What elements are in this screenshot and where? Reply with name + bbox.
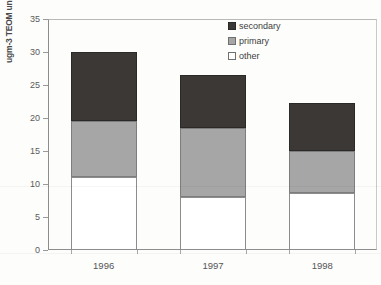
y-axis-tick (43, 217, 48, 218)
x-axis-category-label: 1998 (292, 261, 352, 271)
stacked-bar-chart: ugm-3 TEOM units 05101520253035 19961997… (0, 0, 381, 285)
legend-item-other[interactable]: other (228, 49, 314, 64)
legend-item-secondary[interactable]: secondary (228, 19, 314, 34)
legend-swatch-secondary-icon (228, 22, 236, 30)
y-axis-tick-label: 30 (14, 48, 40, 57)
y-axis-tick (43, 151, 48, 152)
x-axis-tick (289, 250, 290, 254)
x-axis-tick (71, 250, 72, 254)
bar-segment-secondary[interactable] (289, 103, 355, 151)
bar-segment-other[interactable] (289, 193, 355, 250)
plot-area (49, 19, 377, 250)
bar-segment-primary[interactable] (71, 121, 137, 177)
x-axis-tick (355, 250, 356, 254)
bar-segment-primary[interactable] (289, 151, 355, 193)
legend-swatch-other-icon (228, 52, 236, 60)
y-axis-tick-label: 0 (14, 246, 40, 255)
y-axis-tick-label: 20 (14, 114, 40, 123)
bar-segment-other[interactable] (180, 197, 246, 250)
chart-legend: secondaryprimaryother (228, 19, 314, 64)
legend-item-label: primary (239, 34, 269, 49)
y-axis-tick-label: 5 (14, 213, 40, 222)
y-axis-tick-label: 10 (14, 180, 40, 189)
y-axis-tick (43, 184, 48, 185)
bar-segment-other[interactable] (71, 177, 137, 250)
legend-item-label: other (239, 49, 260, 64)
y-axis-tick-label: 25 (14, 81, 40, 90)
y-axis-tick-label: 15 (14, 147, 40, 156)
y-axis-tick (43, 250, 48, 251)
bar-segment-secondary[interactable] (180, 75, 246, 128)
bar-stack[interactable] (71, 19, 137, 250)
x-axis-tick (246, 250, 247, 254)
y-axis-tick (43, 118, 48, 119)
y-axis-tick (43, 52, 48, 53)
bar-segment-primary[interactable] (180, 128, 246, 197)
x-axis-tick (180, 250, 181, 254)
legend-item-label: secondary (239, 19, 281, 34)
x-axis-tick (137, 250, 138, 254)
legend-item-primary[interactable]: primary (228, 34, 314, 49)
bar-segment-secondary[interactable] (71, 52, 137, 121)
y-axis-tick (43, 85, 48, 86)
x-axis-category-label: 1997 (183, 261, 243, 271)
y-axis-tick-label: 35 (14, 15, 40, 24)
x-axis-category-label: 1996 (74, 261, 134, 271)
y-axis-tick (43, 19, 48, 20)
legend-swatch-primary-icon (228, 37, 236, 45)
